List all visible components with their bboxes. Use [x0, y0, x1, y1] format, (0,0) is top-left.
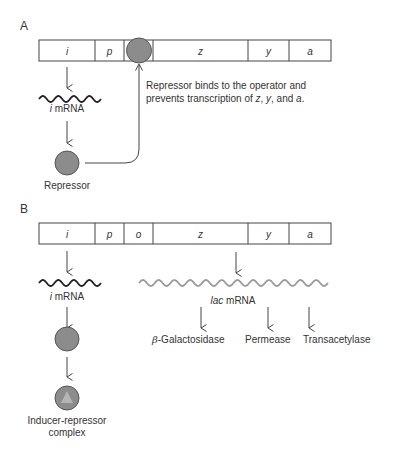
- lac-mrna-wave: [139, 280, 328, 286]
- product-transacetylase: Transacetylase: [303, 334, 371, 345]
- operator-bound-repressor: [127, 38, 152, 63]
- i-mrna-label-a: i mRNA: [50, 103, 85, 114]
- repressor-binding-arrow: [85, 65, 139, 163]
- gene-y-label: y: [265, 229, 272, 240]
- gene-p-label: p: [106, 229, 113, 240]
- i-mrna-wave-b: [39, 280, 101, 286]
- annotation-line-2: prevents transcription of z, y, and a.: [146, 93, 304, 104]
- complex-label-line-1: Inducer-repressor: [28, 415, 108, 426]
- product-permease: Permease: [245, 334, 291, 345]
- lac-operon-diagram: A i p z y a i mRNA Repressor Repressor b…: [0, 0, 394, 464]
- gene-o-label: o: [136, 229, 142, 240]
- panel-a-gene-bar: i p z y a: [39, 38, 331, 63]
- gene-z-label: z: [197, 46, 203, 57]
- repressor-protein-b: [55, 327, 79, 351]
- i-mrna-wave-a: [39, 96, 101, 102]
- gene-bar-outline: [39, 40, 331, 61]
- panel-b-gene-bar: i p o z y a: [39, 223, 331, 244]
- lac-mrna-label: lac mRNA: [210, 295, 255, 306]
- i-mrna-label-b: i mRNA: [50, 291, 85, 302]
- gene-bar-outline: [39, 223, 331, 244]
- panel-a-label: A: [20, 19, 28, 33]
- gene-z-label: z: [197, 229, 203, 240]
- gene-p-label: p: [106, 46, 113, 57]
- panel-b-label: B: [20, 202, 28, 216]
- annotation-line-1: Repressor binds to the operator and: [146, 80, 306, 91]
- gene-y-label: y: [265, 46, 272, 57]
- repressor-protein: [55, 151, 79, 175]
- product-galactosidase: β-Galactosidase: [151, 334, 225, 345]
- gene-a-label: a: [307, 46, 313, 57]
- gene-a-label: a: [307, 229, 313, 240]
- repressor-label: Repressor: [44, 180, 91, 191]
- complex-label-line-2: complex: [48, 427, 85, 438]
